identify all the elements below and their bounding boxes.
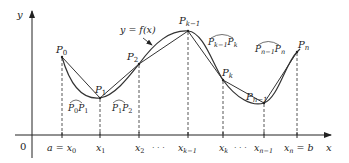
svg-text:Pk−1Pk: Pk−1Pk: [207, 37, 238, 49]
tick-label-x1: x1: [96, 142, 106, 155]
label-P1: P1: [94, 84, 106, 97]
ellipsis-2: · · ·: [234, 143, 247, 152]
arc-label-P0P1: P0P1: [67, 100, 88, 115]
label-P0: P0: [55, 44, 67, 57]
tick-label-x2: x2: [135, 142, 145, 155]
svg-text:P0P1: P0P1: [67, 103, 88, 115]
arc-length-diagram: y x 0 y = f(x) P0: [0, 0, 349, 163]
arc-label-Pk-1Pk: Pk−1Pk: [207, 35, 238, 50]
curve-label-pointer: [143, 38, 152, 45]
svg-text:Pn−1Pn: Pn−1Pn: [254, 44, 285, 56]
origin-label: 0: [20, 141, 26, 152]
axes: y x 0: [15, 9, 332, 158]
y-axis-label: y: [16, 9, 23, 20]
arc-label-Pn-1Pn: Pn−1Pn: [254, 42, 285, 57]
arc-label-P1P2: P1P2: [111, 100, 132, 115]
label-Pk: Pk: [221, 67, 233, 80]
tick-label-xn: xn = b: [284, 142, 314, 155]
ellipsis-1: · · ·: [152, 143, 165, 152]
tick-label-xk: xk: [219, 142, 228, 155]
curve-label: y = f(x): [119, 24, 156, 35]
label-Pk-1: Pk−1: [178, 15, 200, 28]
x-tick-labels: a = x0 x1 x2 · · · xk−1 xk · · · xn−1 xn…: [47, 142, 314, 155]
tick-label-xk-1: xk−1: [178, 142, 197, 155]
x-axis-label: x: [326, 142, 332, 153]
svg-text:P1P2: P1P2: [111, 103, 132, 115]
tick-label-x0: a = x0: [47, 142, 76, 155]
tick-label-xn-1: xn−1: [254, 142, 273, 155]
label-P2: P2: [126, 51, 138, 64]
